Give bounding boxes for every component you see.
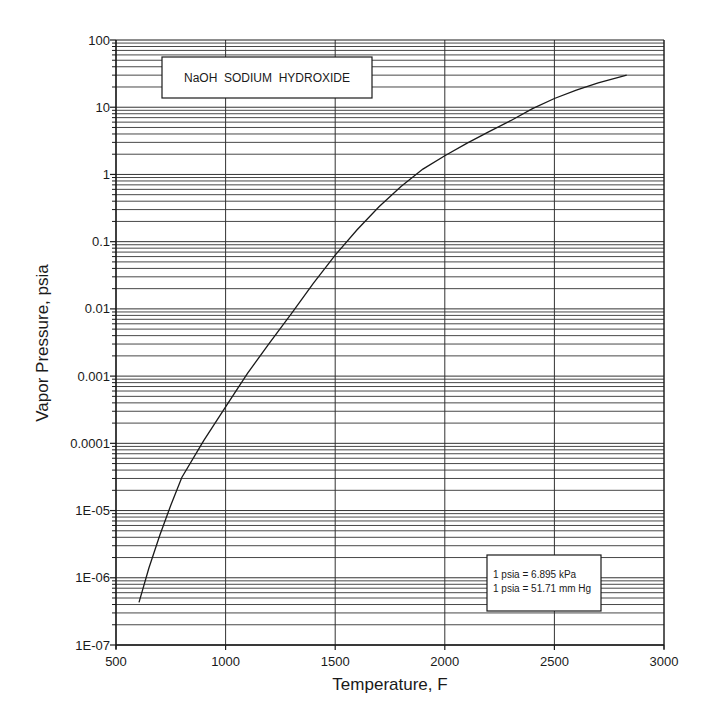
y-tick-label: 0.001 [77, 369, 110, 384]
note-line-kpa: 1 psia = 6.895 kPa [493, 569, 577, 580]
x-tick-label: 2500 [540, 654, 569, 669]
y-tick-label: 1E-07 [75, 638, 110, 653]
y-tick-label: 100 [88, 33, 110, 48]
x-tick-label: 500 [105, 654, 127, 669]
x-tick-label: 1000 [211, 654, 240, 669]
y-tick-label: 0.1 [92, 234, 110, 249]
y-axis-title: Vapor Pressure, psia [33, 264, 52, 422]
y-tick-label: 1E-05 [75, 503, 110, 518]
x-tick-label: 1500 [321, 654, 350, 669]
note-line-mmhg: 1 psia = 51.71 mm Hg [493, 583, 591, 594]
conversion-note-box: 1 psia = 6.895 kPa 1 psia = 51.71 mm Hg [487, 555, 601, 611]
x-tick-label: 3000 [650, 654, 679, 669]
y-tick-label: 0.01 [85, 301, 110, 316]
x-axis-title: Temperature, F [332, 675, 447, 694]
y-tick-label: 1 [103, 167, 110, 182]
y-axis-ticks: 1E-071E-061E-050.00010.0010.010.1110100 [70, 33, 116, 653]
y-tick-label: 0.0001 [70, 436, 110, 451]
vapor-pressure-chart: 1E-071E-061E-050.00010.0010.010.1110100 … [0, 0, 706, 726]
chart-title: NaOH SODIUM HYDROXIDE [184, 71, 350, 85]
x-axis-ticks: 50010001500200025003000 [105, 645, 678, 669]
grid-lines [116, 40, 664, 645]
title-box: NaOH SODIUM HYDROXIDE [162, 57, 372, 98]
x-tick-label: 2000 [430, 654, 459, 669]
y-tick-label: 1E-06 [75, 570, 110, 585]
y-tick-label: 10 [96, 100, 110, 115]
